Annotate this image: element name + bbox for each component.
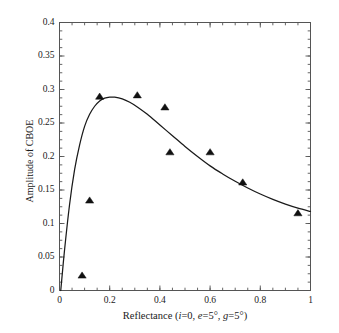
- data-point-marker: [86, 197, 94, 203]
- y-tick-label: 0: [0, 286, 55, 296]
- x-axis-value-g: =5°): [228, 310, 247, 321]
- figure-container: 00.050.10.150.20.250.30.350.4 00.20.40.6…: [0, 0, 339, 333]
- x-tick-label: 0: [57, 296, 62, 306]
- y-tick-label: 0.4: [0, 18, 55, 28]
- model-fit-curve: [61, 97, 311, 290]
- data-point-marker: [239, 179, 247, 185]
- x-tick-label: 0.6: [204, 296, 216, 306]
- y-tick-label: 0.05: [0, 252, 55, 262]
- data-point-markers: [78, 92, 302, 278]
- data-point-marker: [133, 92, 141, 98]
- data-point-marker: [166, 149, 174, 155]
- axis-ticks: [60, 23, 311, 291]
- data-point-marker: [294, 210, 302, 216]
- plot-frame: [60, 23, 311, 291]
- x-tick-label: 0.4: [154, 296, 166, 306]
- data-point-marker: [96, 93, 104, 99]
- x-tick-label: 0.8: [254, 296, 266, 306]
- data-point-marker: [206, 149, 214, 155]
- x-axis-title-prefix: Reflectance (: [123, 310, 179, 321]
- x-axis-title: Reflectance (i=0, e=5°, g=5°): [59, 311, 311, 322]
- x-axis-value-i: =0,: [181, 310, 197, 321]
- y-axis-title: Amplitude of CBOE: [25, 81, 35, 241]
- x-axis-value-e: =5°,: [202, 310, 223, 321]
- x-tick-label: 1: [308, 296, 313, 306]
- y-tick-label: 0.35: [0, 51, 55, 61]
- data-point-marker: [161, 104, 169, 110]
- data-point-marker: [78, 272, 86, 278]
- x-tick-label: 0.2: [104, 296, 116, 306]
